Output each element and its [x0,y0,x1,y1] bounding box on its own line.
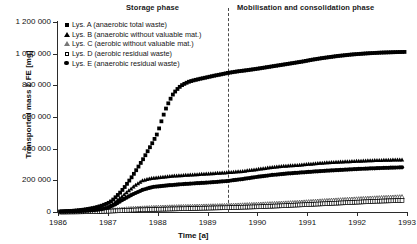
chart-legend: Lys. A (anaerobic total waste)Lys. B (an… [62,20,202,68]
legend-item: Lys. E (anaerobic residual waste) [62,58,202,68]
y-tick-label: 800 000 [22,80,51,89]
open-triangle-icon [62,41,71,46]
y-tick-label: 200 000 [22,175,51,184]
filled-circle-icon [62,61,71,66]
x-axis-title: Time [a] [178,231,209,240]
y-tick [53,117,57,118]
mobilisation-phase-title: Mobilisation and consolidation phase [237,3,374,12]
x-tick [158,212,159,216]
legend-item: Lys. C (aerobic without valuable mat.) [62,39,202,49]
x-tick-label: 1986 [49,218,67,227]
series-filled-square [59,50,407,214]
chart-figure: Storage phase Mobilisation and consolida… [0,0,417,244]
y-tick [53,149,57,150]
legend-item: Lys. D (aerobic residual waste) [62,49,202,59]
legend-label: Lys. A (anaerobic total waste) [72,20,167,29]
y-tick [53,54,57,55]
open-square-icon [62,52,71,56]
legend-label: Lys. E (anaerobic residual waste) [72,59,180,68]
x-tick-label: 1992 [348,218,366,227]
x-tick-label: 1989 [199,218,217,227]
y-tick-label: 1 200 000 [15,17,51,26]
x-tick-label: 1990 [249,218,267,227]
y-tick [53,212,57,213]
y-tick [53,85,57,86]
y-tick-label: 600 000 [22,112,51,121]
legend-item: Lys. B (anaerobic without valuable mat.) [62,30,202,40]
y-tick-label: 0 [47,207,51,216]
x-tick [357,212,358,216]
legend-label: Lys. D (aerobic residual waste) [72,49,172,58]
y-tick-label: 400 000 [22,144,51,153]
y-tick [53,180,57,181]
legend-item: Lys. A (anaerobic total waste) [62,20,202,30]
filled-square-icon [62,23,71,27]
x-tick [257,212,258,216]
x-tick-label: 1987 [99,218,117,227]
y-tick [53,22,57,23]
x-tick-label: 1993 [398,218,416,227]
legend-label: Lys. C (aerobic without valuable mat.) [72,39,194,48]
y-tick-label: 1 000 000 [15,49,51,58]
x-tick [407,212,408,216]
filled-triangle-icon [62,32,71,37]
x-tick [208,212,209,216]
x-tick [307,212,308,216]
x-tick-label: 1988 [149,218,167,227]
storage-phase-title: Storage phase [126,3,179,12]
legend-label: Lys. B (anaerobic without valuable mat.) [72,30,202,39]
x-tick-label: 1991 [298,218,316,227]
